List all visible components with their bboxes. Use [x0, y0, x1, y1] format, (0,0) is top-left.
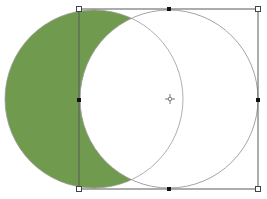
drawing-canvas[interactable] [0, 0, 267, 199]
resize-handle-left[interactable] [77, 98, 81, 102]
resize-handle-top-right[interactable] [256, 7, 261, 12]
resize-handle-bottom-right[interactable] [256, 187, 261, 192]
resize-handle-top[interactable] [167, 7, 171, 11]
resize-handle-bottom-left[interactable] [77, 187, 82, 192]
resize-handle-bottom[interactable] [167, 187, 171, 191]
resize-handle-right[interactable] [256, 98, 260, 102]
resize-handle-top-left[interactable] [77, 7, 82, 12]
green-crescent-shape[interactable] [5, 10, 183, 188]
